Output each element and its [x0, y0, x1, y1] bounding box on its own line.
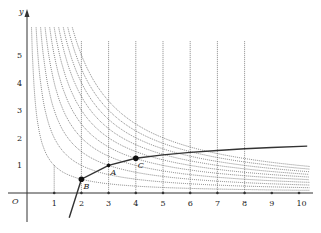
x-tick-mark [80, 192, 83, 195]
y-tick-label: 5 [17, 51, 22, 60]
y-tick-label: 4 [17, 79, 22, 88]
dotted-hyperbolae [32, 27, 310, 190]
axis-ticks: 1234567891012345 [17, 51, 307, 208]
x-tick-label: 9 [269, 199, 274, 208]
y-tick-label: 2 [17, 134, 22, 143]
x-tick-mark [189, 192, 192, 195]
x-tick-mark [243, 192, 246, 195]
dotted-vertical-lines [54, 41, 244, 193]
point-C [133, 155, 139, 161]
x-tick-mark [53, 192, 56, 195]
function-graph: 1234567891012345 y O BAC [0, 0, 321, 233]
y-axis-label: y [18, 7, 24, 16]
x-tick-mark [298, 192, 301, 195]
x-tick-mark [162, 192, 165, 195]
x-tick-mark [135, 192, 138, 195]
x-tick-label: 8 [242, 199, 247, 208]
x-tick-label: 6 [188, 199, 193, 208]
x-tick-label: 2 [79, 199, 84, 208]
x-tick-label: 5 [161, 199, 166, 208]
y-tick-label: 3 [17, 106, 22, 115]
x-tick-label: 4 [133, 199, 138, 208]
point-A [107, 164, 111, 168]
hyperbola-k5 [50, 27, 310, 179]
x-tick-label: 1 [52, 199, 57, 208]
hyperbola-k3 [41, 27, 310, 185]
x-tick-mark [271, 192, 274, 195]
hyperbola-k2 [36, 27, 309, 187]
origin-label: O [12, 197, 19, 206]
point-B [79, 176, 85, 182]
hyperbola-k6 [54, 27, 309, 177]
x-tick-label: 7 [215, 199, 220, 208]
x-tick-mark [107, 192, 110, 195]
y-axis-arrow-icon [25, 9, 30, 17]
hyperbola-k8 [63, 27, 309, 171]
point-label-A: A [110, 168, 117, 177]
hyperbola-k10 [72, 27, 309, 166]
y-tick-label: 1 [17, 161, 22, 170]
point-label-B: B [82, 182, 89, 191]
hyperbola-k4 [45, 27, 309, 182]
x-tick-mark [216, 192, 219, 195]
point-label-C: C [138, 161, 144, 170]
x-tick-label: 3 [106, 199, 111, 208]
x-tick-label: 10 [297, 199, 307, 208]
hyperbola-k1 [32, 27, 310, 190]
